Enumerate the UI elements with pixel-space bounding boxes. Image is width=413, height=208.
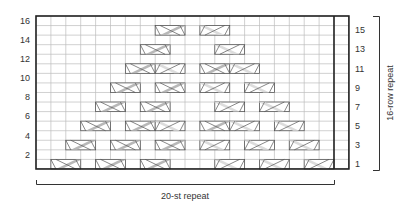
vertical-repeat-label: 16-row repeat [385,65,395,121]
cable-dark [125,121,156,131]
row-label-right: 1 [355,159,360,169]
cable-symbols [51,26,334,169]
cable-dark [51,159,82,169]
cable-dark [155,26,186,36]
cable-light [273,121,304,131]
cable-light [154,64,185,74]
cable-dark [96,102,127,112]
cable-dark [140,45,171,55]
row-label-right: 5 [355,121,360,131]
row-label-left: 14 [20,35,30,45]
row-label-left: 6 [25,111,30,121]
cable-light [214,45,245,55]
row-label-right: 13 [355,44,365,54]
vertical-repeat-bracket: 16-row repeat [373,17,395,171]
cable-dark [81,121,112,131]
row-label-left: 8 [25,92,30,102]
row-label-right: 15 [355,25,365,35]
cable-dark [200,121,231,131]
cable-dark [155,140,186,150]
cable-light [229,64,260,74]
cable-dark [125,64,156,74]
row-label-left: 12 [20,54,30,64]
cable-dark [96,159,127,169]
cable-light [214,159,245,169]
cable-dark [111,140,142,150]
cable-light [244,140,275,150]
cable-dark [200,64,231,74]
cable-light [229,121,260,131]
right-row-labels: 15131197531 [355,25,365,169]
cable-light [303,159,334,169]
row-label-right: 11 [355,64,364,74]
cable-light [259,102,290,112]
cable-light [199,26,230,36]
row-label-left: 4 [25,131,30,141]
row-label-right: 3 [355,140,360,150]
cable-dark [140,159,171,169]
cable-light [154,121,185,131]
horizontal-repeat-label: 20-st repeat [161,191,210,201]
cable-dark [155,83,186,93]
row-label-left: 16 [20,16,30,26]
cable-light [259,159,290,169]
cable-light [244,83,275,93]
row-label-right: 7 [355,102,360,112]
cable-dark [140,102,171,112]
cable-light [214,102,245,112]
cable-light [199,83,230,93]
row-label-left: 10 [20,73,30,83]
cable-light [288,140,319,150]
horizontal-repeat-bracket: 20-st repeat [37,180,335,201]
left-row-labels: 161412108642 [20,16,30,160]
cable-light [199,140,230,150]
cable-dark [66,140,97,150]
cable-dark [111,83,142,93]
row-label-left: 2 [25,150,30,160]
row-label-right: 9 [355,83,360,93]
knitting-chart: 161412108642 15131197531 20-st repeat 16… [0,0,413,208]
